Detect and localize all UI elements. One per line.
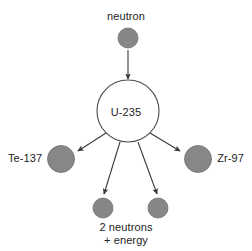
fission-diagram: neutron U-235 Te-137 Zr-97 2 neutrons + … — [0, 0, 252, 251]
te137-label: Te-137 — [8, 152, 42, 165]
arrow-nucleus-to-zr97 — [150, 133, 180, 151]
te137-fragment-particle — [48, 146, 75, 173]
products-line-1: 2 neutrons — [100, 221, 153, 233]
u235-label: U-235 — [0, 106, 252, 119]
neutron-label: neutron — [0, 10, 252, 23]
incoming-neutron-particle — [118, 28, 138, 48]
fission-products-label: 2 neutrons + energy — [0, 221, 252, 247]
product-neutron-left-particle — [93, 198, 113, 218]
product-neutron-right-particle — [148, 198, 168, 218]
zr97-fragment-particle — [185, 146, 212, 173]
zr97-label: Zr-97 — [217, 152, 244, 165]
arrow-nucleus-to-neutron-right — [138, 142, 157, 194]
products-line-2: + energy — [0, 234, 252, 247]
arrow-nucleus-to-neutron-left — [104, 142, 120, 194]
arrow-nucleus-to-te137 — [78, 133, 106, 151]
fission-diagram-canvas — [0, 0, 252, 251]
